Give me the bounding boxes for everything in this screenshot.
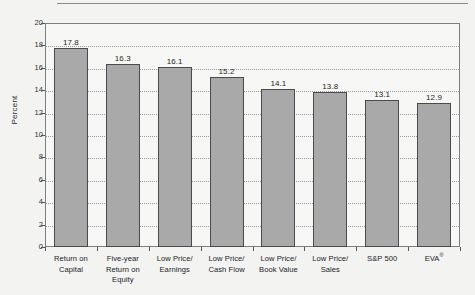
bar-value-label: 14.1 xyxy=(270,79,286,88)
y-axis-tick-label: 12 xyxy=(17,109,43,117)
y-axis-tick-label: 14 xyxy=(17,86,43,94)
x-axis-category-label: Low Price/Sales xyxy=(304,254,356,275)
x-axis-tick-mark xyxy=(149,247,150,251)
bar-value-label: 17.8 xyxy=(63,38,79,47)
x-axis-category-label: Low Price/Cash Flow xyxy=(201,254,253,275)
bar-slot: 13.8 xyxy=(304,23,356,247)
bar-slot: 13.1 xyxy=(356,23,408,247)
x-axis-category-label: Low Price/Book Value xyxy=(253,254,305,275)
y-axis-tick-label: 4 xyxy=(17,198,43,206)
y-axis-tick-label: 8 xyxy=(17,153,43,161)
x-axis-tick-mark xyxy=(253,247,254,251)
x-axis-tick-mark xyxy=(460,247,461,251)
bar-slot: 17.8 xyxy=(45,23,97,247)
y-axis-tick-label: 18 xyxy=(17,41,43,49)
y-axis-tick-label: 20 xyxy=(17,19,43,27)
bar[interactable] xyxy=(210,77,244,247)
bar[interactable] xyxy=(261,89,295,247)
x-axis-category-label: Low Price/Earnings xyxy=(149,254,201,275)
y-axis-tick-label: 0 xyxy=(17,243,43,251)
chart-figure: Percent 02468101214161820 17.816.316.115… xyxy=(0,0,475,295)
bar-slot: 15.2 xyxy=(201,23,253,247)
y-axis-tick-label: 16 xyxy=(17,64,43,72)
bar[interactable] xyxy=(313,92,347,247)
bar[interactable] xyxy=(54,48,88,247)
bar[interactable] xyxy=(417,103,451,247)
x-axis-tick-mark xyxy=(97,247,98,251)
bar-value-label: 13.8 xyxy=(322,82,338,91)
bar-slot: 16.3 xyxy=(97,23,149,247)
x-axis-tick-mark xyxy=(45,247,46,251)
x-axis-category-label: Five-yearReturn onEquity xyxy=(97,254,149,286)
y-axis-tick-label: 2 xyxy=(17,221,43,229)
x-axis-category-label: S&P 500 xyxy=(356,254,408,265)
x-axis-tick-mark xyxy=(356,247,357,251)
bar[interactable] xyxy=(106,64,140,247)
bar-slot: 12.9 xyxy=(408,23,460,247)
bar-value-label: 15.2 xyxy=(219,67,235,76)
bar-value-label: 16.1 xyxy=(167,57,183,66)
x-axis-tick-mark xyxy=(408,247,409,251)
x-axis-tick-mark xyxy=(304,247,305,251)
x-axis-category-labels: Return onCapitalFive-yearReturn onEquity… xyxy=(45,254,460,294)
bar-series: 17.816.316.115.214.113.813.112.9 xyxy=(45,23,460,247)
bar-slot: 14.1 xyxy=(253,23,305,247)
x-axis-category-label: EVA® xyxy=(408,254,460,265)
bar[interactable] xyxy=(365,100,399,247)
bar-value-label: 16.3 xyxy=(115,54,131,63)
x-axis-category-label: Return onCapital xyxy=(45,254,97,275)
y-axis-tick-label: 6 xyxy=(17,176,43,184)
y-axis-tick-label: 10 xyxy=(17,131,43,139)
bar[interactable] xyxy=(158,67,192,247)
header-rule xyxy=(57,3,468,4)
bar-slot: 16.1 xyxy=(149,23,201,247)
bar-value-label: 13.1 xyxy=(374,90,390,99)
x-axis-tick-mark xyxy=(201,247,202,251)
bar-value-label: 12.9 xyxy=(426,93,442,102)
